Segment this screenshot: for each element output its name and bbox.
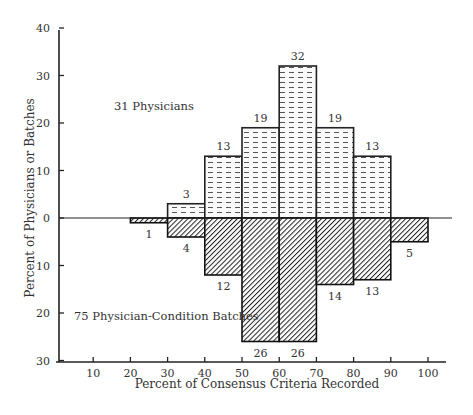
bar-physicians-60-70	[279, 66, 316, 218]
bar-label: 3	[183, 188, 190, 201]
y-axis-title: Percent of Physicians or Batches	[23, 98, 37, 297]
bar-label: 32	[291, 50, 305, 63]
annotation-physicians: 31 Physicians	[114, 99, 194, 113]
bar-physicians-70-80	[316, 128, 353, 218]
bar-label: 19	[254, 112, 268, 125]
bar-label: 1	[146, 228, 153, 241]
annotation-batches: 75 Physician-Condition Batches	[74, 309, 259, 323]
bar-batches-90-100	[391, 218, 428, 242]
bar-label: 13	[365, 140, 379, 153]
y-tick-label: 30	[36, 70, 50, 83]
bar-label: 26	[291, 347, 305, 360]
bar-physicians-30-40	[168, 204, 205, 218]
x-axis-title: Percent of Consensus Criteria Recorded	[135, 377, 380, 391]
bar-label: 26	[254, 347, 268, 360]
bar-label: 13	[216, 140, 230, 153]
bar-batches-80-90	[354, 218, 391, 280]
y-tick-label: 30	[36, 355, 50, 368]
bar-label: 12	[216, 280, 230, 293]
y-tick-label: 10	[36, 165, 50, 178]
y-tick-label: 0	[43, 212, 50, 225]
y-tick-label: 20	[36, 117, 50, 130]
y-tick-label: 10	[36, 260, 50, 273]
x-tick-label: 100	[418, 367, 439, 380]
y-tick-label: 20	[36, 307, 50, 320]
physicians-bars	[168, 66, 391, 218]
bar-physicians-40-50	[205, 156, 242, 218]
bar-batches-40-50	[205, 218, 242, 275]
histogram-chart: 010203040102030102030405060708090100 134…	[0, 0, 473, 415]
bar-label: 4	[183, 242, 190, 255]
bar-batches-30-40	[168, 218, 205, 237]
bar-batches-20-30	[130, 218, 167, 223]
bar-label: 19	[328, 112, 342, 125]
bar-batches-70-80	[316, 218, 353, 285]
bar-physicians-80-90	[354, 156, 391, 218]
bar-batches-60-70	[279, 218, 316, 342]
bar-label: 14	[328, 290, 342, 303]
bar-label: 5	[406, 247, 413, 260]
bar-label: 13	[365, 285, 379, 298]
x-tick-label: 90	[384, 367, 398, 380]
x-tick-label: 10	[86, 367, 100, 380]
bar-physicians-50-60	[242, 128, 279, 218]
y-tick-label: 40	[36, 22, 50, 35]
